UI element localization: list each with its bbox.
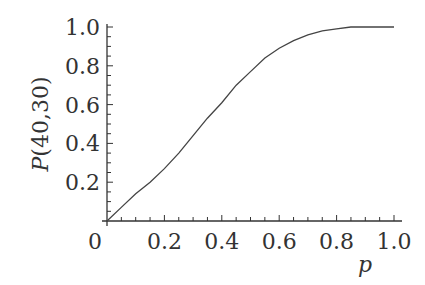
data-line (107, 27, 394, 221)
y-tick-label: 0.4 (65, 131, 100, 156)
y-tick-label: 0.8 (65, 54, 100, 79)
chart: 00.20.40.60.81.00.20.40.60.81.0 p P(40,3… (0, 0, 425, 285)
x-tick-label: 1.0 (377, 229, 412, 254)
x-tick-label: 0.4 (204, 229, 239, 254)
y-tick-label: 1.0 (65, 15, 100, 40)
x-tick-label: 0 (88, 229, 102, 254)
plot-area: 00.20.40.60.81.00.20.40.60.81.0 p P(40,3… (0, 0, 425, 285)
y-axis-label: P(40,30) (28, 77, 53, 173)
x-tick-label: 0.2 (147, 229, 182, 254)
x-tick-label: 0.6 (262, 229, 297, 254)
y-tick-label: 0.6 (65, 93, 100, 118)
x-tick-label: 0.8 (319, 229, 354, 254)
x-axis-label: p (358, 252, 372, 277)
axes (102, 24, 402, 226)
tick-labels: 00.20.40.60.81.00.20.40.60.81.0 (65, 15, 412, 254)
ticks (107, 27, 394, 221)
y-tick-label: 0.2 (65, 170, 100, 195)
